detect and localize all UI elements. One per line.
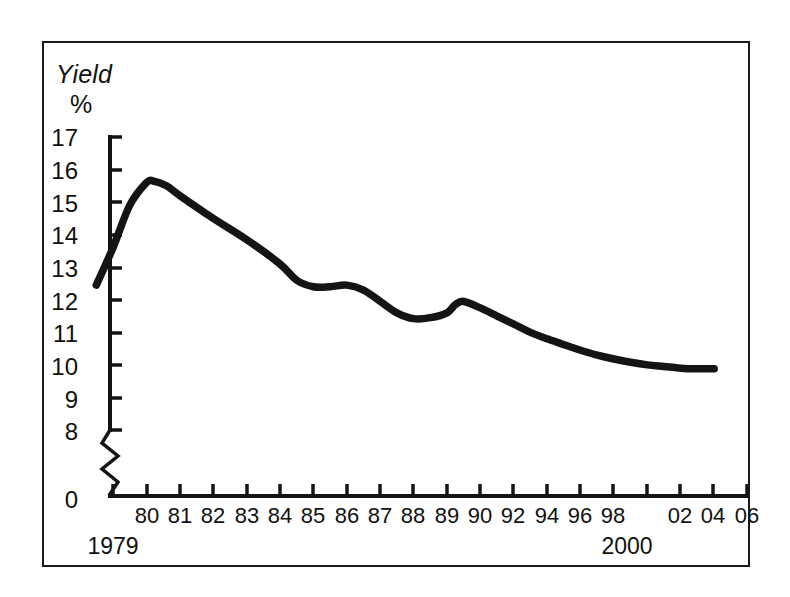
y-axis-title-percent: % bbox=[70, 90, 92, 119]
y-axis-title-yield: Yield bbox=[56, 60, 112, 89]
y-tick-label-8: 8 bbox=[42, 420, 78, 444]
y-tick-label-15: 15 bbox=[42, 192, 78, 216]
figure-container: Yield % 17 16 15 14 13 12 11 10 9 8 0 80… bbox=[0, 0, 790, 597]
x-tick-label-06: 06 bbox=[727, 505, 767, 527]
x-tick-label-2000: 2000 bbox=[587, 535, 667, 558]
x-tick-label-98: 98 bbox=[593, 505, 633, 527]
y-tick-label-0: 0 bbox=[42, 488, 78, 512]
y-tick-label-11: 11 bbox=[42, 322, 78, 346]
y-tick-label-9: 9 bbox=[42, 388, 78, 412]
x-tick-label-1979: 1979 bbox=[73, 535, 153, 558]
y-tick-label-13: 13 bbox=[42, 257, 78, 281]
y-tick-label-16: 16 bbox=[42, 159, 78, 183]
y-tick-label-17: 17 bbox=[42, 126, 78, 150]
chart-frame-border bbox=[42, 41, 750, 567]
y-tick-label-10: 10 bbox=[42, 355, 78, 379]
y-tick-label-12: 12 bbox=[42, 290, 78, 314]
y-tick-label-14: 14 bbox=[42, 224, 78, 248]
